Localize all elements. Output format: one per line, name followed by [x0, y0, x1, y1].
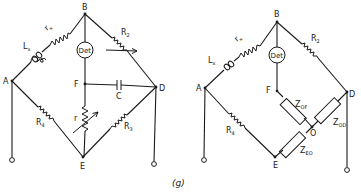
label-zeo: ZEO [300, 146, 313, 156]
detector-icon: Det [269, 47, 285, 63]
label-node-b: B [274, 10, 280, 19]
label-r2: R2 [311, 34, 320, 44]
node-e [274, 156, 277, 159]
variable-resistor-r-icon [82, 106, 88, 131]
resistor-rx-icon [239, 45, 260, 57]
label-r3: R3 [124, 122, 133, 132]
inductor-lx-icon [223, 60, 235, 71]
label-zod: ZOD [333, 118, 346, 128]
svg-text:Det: Det [79, 47, 92, 55]
label-c: C [116, 92, 122, 101]
label-zof: ZOF [295, 100, 307, 110]
arrow-r2 [106, 50, 137, 51]
terminal-right-d [345, 168, 350, 173]
figure-caption: (g) [172, 178, 185, 188]
label-node-e: E [273, 161, 278, 170]
inductor-lx-icon [31, 51, 46, 63]
impedance-zof-icon [280, 98, 306, 124]
node-e [82, 156, 85, 159]
resistor-r2-icon [302, 43, 318, 58]
variable-resistor-r2-icon [112, 37, 128, 52]
label-node-a: A [196, 84, 202, 93]
terminal-right-a [202, 158, 207, 163]
label-rx: rx [233, 33, 244, 45]
label-node-f: F [266, 86, 271, 95]
capacitor-c-icon [117, 80, 121, 90]
label-node-o: O [310, 129, 316, 138]
label-rx: rx [43, 22, 54, 34]
label-node-d: D [159, 84, 165, 93]
label-lx: Lx [23, 42, 30, 52]
label-lx: Lx [208, 56, 215, 66]
label-node-f: F [74, 80, 79, 89]
wire-a-lx [12, 62, 31, 81]
label-r: r [74, 114, 78, 123]
label-node-d: D [349, 90, 355, 99]
svg-text:Det: Det [271, 52, 284, 60]
terminal-left-d [152, 162, 157, 167]
right-bridge-circuit: Lx rx B Det F R2 D A R4 ZOF [196, 10, 355, 172]
left-bridge-circuit: Lx rx B Det R2 F C D A [3, 3, 165, 171]
label-r4: R4 [226, 126, 235, 136]
resistor-rx-icon [50, 33, 70, 45]
label-node-b: B [82, 3, 88, 12]
terminal-left-a [10, 158, 15, 163]
detector-icon: Det [77, 42, 93, 58]
label-r4: R4 [36, 118, 45, 128]
label-r2: R2 [121, 28, 130, 38]
label-node-a: A [3, 77, 9, 86]
label-node-e: E [80, 162, 85, 171]
bridge-circuit-figure: Lx rx B Det R2 F C D A [0, 0, 361, 194]
